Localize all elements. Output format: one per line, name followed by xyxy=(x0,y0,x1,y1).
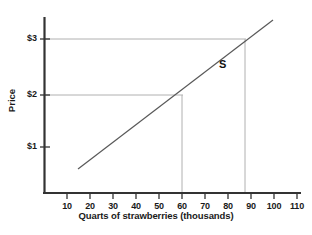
y-axis-title: Price xyxy=(6,81,17,121)
y-tick-label-3: $3 xyxy=(8,33,37,43)
x-axis-title: Quarts of strawberries (thousands) xyxy=(0,210,312,221)
supply-curve-chart: 10 20 30 40 50 60 70 80 90 100 110 $1 $2… xyxy=(0,0,312,235)
y-tick-label-1: $1 xyxy=(8,141,37,151)
chart-axes xyxy=(43,17,301,194)
chart-plot-area xyxy=(0,0,312,235)
reference-lines xyxy=(45,39,246,193)
supply-curve-label: S xyxy=(219,58,226,70)
